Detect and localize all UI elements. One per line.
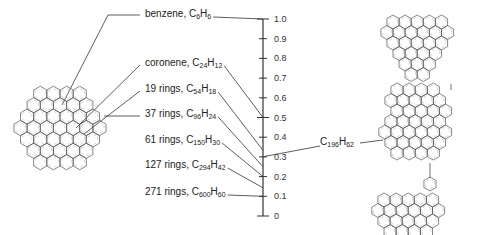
axis-tick-label: 0.3: [274, 152, 287, 162]
axis-tick-label: 0.4: [274, 132, 287, 142]
compound-label: 271 rings, C600H60: [145, 186, 226, 201]
axis-tick-label: 0.2: [274, 172, 287, 182]
axis-tick-label: 0.6: [274, 93, 287, 103]
leader-line: [228, 195, 263, 196]
leader-line: [360, 140, 383, 143]
pointer-line: [76, 65, 140, 128]
compound-label: 37 rings, C96H24: [145, 108, 216, 123]
compound-label: benzene, C6H6: [145, 8, 211, 23]
axis-tick-label: 0.7: [274, 73, 287, 83]
compound-label: 61 rings, C150H30: [145, 134, 220, 149]
pointer-line: [84, 91, 140, 134]
axis-tick-label: 0.9: [274, 34, 287, 44]
axis-tick-label: 0: [274, 211, 279, 221]
leader-line: [224, 66, 263, 118]
leader-line: [263, 146, 320, 157]
compound-label: 127 rings, C294H42: [145, 159, 226, 174]
compound-label-c196h62: C196H62: [320, 136, 354, 151]
axis-tick-label: 1.0: [274, 14, 287, 24]
compound-label: 19 rings, C54H18: [145, 83, 216, 98]
axis-tick-label: 0.5: [274, 113, 287, 123]
diagram-canvas: [0, 0, 490, 235]
compound-label: coronene, C24H12: [145, 57, 222, 72]
benzene-ring-icon: [405, 68, 417, 82]
pointer-line: [62, 15, 108, 105]
axis-tick-label: 0.8: [274, 53, 287, 63]
axis-tick-label: 0.1: [274, 191, 287, 201]
leader-line: [213, 17, 263, 19]
leader-line: [228, 168, 263, 188]
